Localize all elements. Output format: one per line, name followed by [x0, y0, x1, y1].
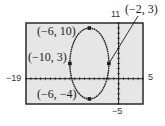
point-label-right: (−2, 3) — [125, 3, 158, 15]
xmin-label: −19 — [6, 74, 21, 83]
point-label-bottom: (−6, −4) — [37, 88, 77, 100]
ymax-label: 11 — [111, 10, 120, 19]
graph-screen — [0, 0, 165, 126]
point-label-top: (−6, 10) — [37, 25, 76, 37]
xmax-label: 5 — [148, 73, 153, 82]
point-label-left: (−10, 3) — [28, 51, 67, 63]
calculator-graph-figure: −19 5 11 −5 (−6, 10) (−10, 3) (−2, 3) (−… — [0, 0, 165, 126]
ymin-label: −5 — [112, 107, 122, 116]
